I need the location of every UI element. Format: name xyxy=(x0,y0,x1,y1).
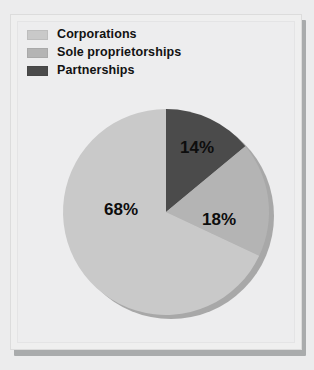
legend-item-sole-proprietorships[interactable]: Sole proprietorships xyxy=(27,45,181,60)
legend-swatch-sole-proprietorships xyxy=(27,48,48,58)
legend-label-corporations: Corporations xyxy=(57,27,137,42)
legend-label-sole-proprietorships: Sole proprietorships xyxy=(57,45,181,60)
chart-panel: 14% 18% 68% Corporations Sole proprietor… xyxy=(10,14,302,350)
pie-label-partnerships: 14% xyxy=(180,138,214,157)
legend-swatch-corporations xyxy=(27,30,48,40)
pie-label-corporations: 68% xyxy=(104,200,138,219)
chart-legend: Corporations Sole proprietorships Partne… xyxy=(27,27,181,81)
legend-swatch-partnerships xyxy=(27,66,48,76)
legend-label-partnerships: Partnerships xyxy=(57,63,135,78)
pie-label-sole-proprietorships: 18% xyxy=(202,210,236,229)
legend-item-corporations[interactable]: Corporations xyxy=(27,27,181,42)
legend-item-partnerships[interactable]: Partnerships xyxy=(27,63,181,78)
figure-container: 14% 18% 68% Corporations Sole proprietor… xyxy=(0,0,314,370)
